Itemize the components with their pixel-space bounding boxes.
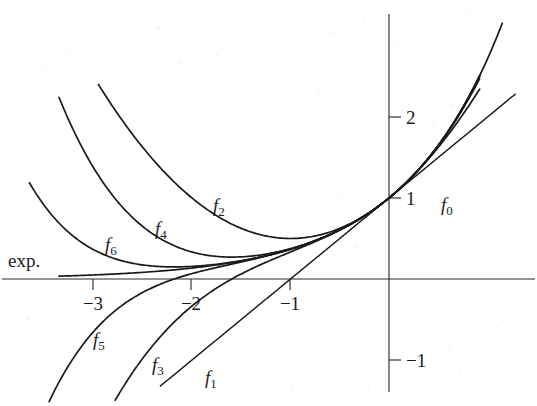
curve-label-f6: f6 [105, 234, 117, 258]
x-tick-label-0: −3 [83, 293, 103, 314]
x-tick-label-2: −1 [280, 293, 300, 314]
curve-label-f0: f0 [441, 194, 453, 218]
y-tick-label-2: −1 [406, 350, 426, 371]
curve-label-f3: f3 [152, 354, 164, 378]
x-tick-label-1: −2 [181, 293, 201, 314]
ticks-group: −3−2−121−1 [83, 107, 426, 371]
curve-f6 [29, 76, 479, 267]
curve-f4 [59, 76, 480, 257]
plot-canvas: −3−2−121−1 exp.f0f1f2f3f4f5f6 [0, 0, 537, 406]
curve-f2 [98, 85, 479, 239]
curve-label-exp: exp. [8, 250, 40, 271]
curve-label-f5: f5 [93, 329, 105, 353]
curve-f1 [160, 94, 515, 386]
y-tick-label-1: 1 [406, 188, 416, 209]
axes-group [2, 14, 535, 392]
y-tick-label-0: 2 [406, 107, 416, 128]
taylor-exp-figure: −3−2−121−1 exp.f0f1f2f3f4f5f6 [0, 0, 537, 406]
curve-label-f4: f4 [155, 218, 167, 242]
curve-label-f2: f2 [213, 195, 225, 219]
curve-label-f1: f1 [205, 367, 217, 391]
